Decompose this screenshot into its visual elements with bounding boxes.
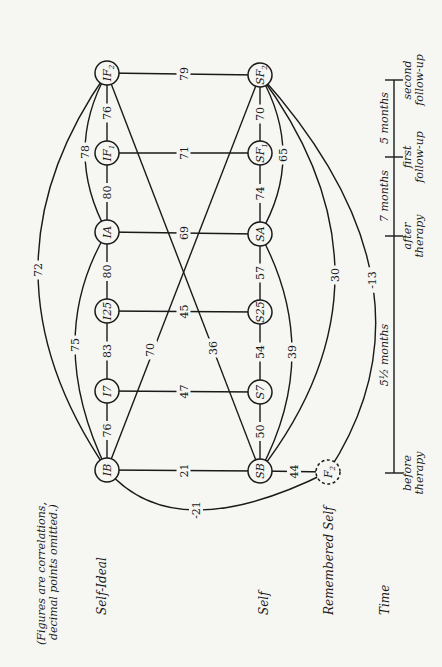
- node-label: SB: [254, 463, 267, 479]
- node-I7: I7: [95, 379, 119, 403]
- tick-label-2: follow-up: [413, 131, 426, 184]
- edge-label: 80: [100, 262, 114, 281]
- edge-label: 74: [253, 184, 267, 203]
- edge-label: 54: [253, 343, 267, 362]
- node-label: IA: [101, 226, 114, 239]
- diagram-svg: 7683808076505457747021474569717944703672…: [0, 0, 442, 667]
- edge-label: 21: [177, 461, 191, 480]
- tick-label-2: therapy: [413, 451, 426, 495]
- edge-SB-SF2: 30: [260, 75, 342, 471]
- edge-label: 39: [285, 343, 299, 362]
- edge-IB-IF2: 72: [31, 73, 107, 470]
- edge-label: -13: [365, 267, 379, 293]
- edge-value: 76: [101, 424, 114, 438]
- edge-value: 72: [32, 263, 45, 277]
- edge-label: 76: [100, 104, 114, 123]
- edge-value: 69: [178, 226, 191, 240]
- node-IA: IA: [95, 220, 119, 244]
- edge-value: 80: [101, 265, 114, 279]
- node-SF2: SF2: [248, 63, 272, 87]
- node-label: SA: [254, 226, 267, 242]
- edge-I7-S7: 47: [107, 382, 260, 401]
- edge-label: 70: [253, 105, 267, 124]
- interval-label: 5 months: [378, 92, 391, 144]
- edge-value: 44: [288, 465, 301, 479]
- time-tick: beforetherapy: [385, 451, 426, 495]
- edge-value: 21: [178, 464, 191, 478]
- edge-label: 44: [287, 462, 301, 481]
- row-label-self-ideal: Self-Ideal: [95, 557, 109, 615]
- edge-label: -21: [189, 497, 203, 523]
- edge-IF1-SF1: 71: [107, 144, 260, 163]
- edge-label: 78: [78, 143, 92, 162]
- edge-value: 54: [254, 345, 267, 359]
- correlation-diagram: 7683808076505457747021474569717944703672…: [0, 0, 442, 667]
- edge-value: 70: [254, 107, 267, 121]
- interval-label: 7 months: [378, 170, 391, 222]
- edge-label: 75: [68, 336, 82, 355]
- node-F2: F2: [316, 460, 340, 484]
- row-label-self: Self: [257, 589, 271, 615]
- node-SF1: SF1: [248, 141, 272, 165]
- edge-label: 30: [328, 266, 342, 285]
- node-label: I7: [101, 385, 114, 397]
- node-label: S25: [254, 301, 267, 323]
- edge-label: 36: [206, 339, 220, 358]
- edge-value: 47: [178, 385, 191, 399]
- edge-value: 71: [178, 146, 191, 160]
- edge-value: 45: [178, 305, 191, 319]
- edge-value: 79: [178, 67, 191, 81]
- edge-value: -21: [190, 501, 203, 519]
- edge-value: 36: [207, 341, 220, 355]
- edge-value: 76: [101, 106, 114, 120]
- node-IB: IB: [95, 458, 119, 482]
- edge-label: 76: [100, 421, 114, 440]
- edge-label: 83: [100, 342, 114, 361]
- edge-value: 80: [101, 186, 114, 200]
- edge-value: 74: [254, 187, 267, 201]
- edges-layer: 7683808076505457747021474569717944703672…: [31, 65, 379, 523]
- node-S7: S7: [248, 380, 272, 404]
- interval-label: 5½ months: [378, 323, 391, 386]
- edge-label: 70: [143, 341, 157, 360]
- edge-value: 50: [254, 425, 267, 439]
- edge-IB-SB: 21: [107, 461, 260, 480]
- row-label-remembered-self: Remembered Self: [322, 504, 336, 616]
- edge-label: 50: [253, 422, 267, 441]
- edge-label: 72: [31, 261, 45, 280]
- time-tick: firstfollow-up: [385, 131, 426, 184]
- nodes-layer: IBI7I25IAIF1IF2SBS7S25SASF1SF2F2: [95, 61, 340, 484]
- edge-label: 47: [177, 382, 191, 401]
- node-label: I25: [101, 302, 114, 321]
- edge-value: 83: [101, 344, 114, 358]
- edge-value: 65: [277, 148, 290, 162]
- edge-value: 30: [329, 268, 342, 282]
- time-tick: secondfollow-up: [385, 54, 426, 107]
- tick-label-2: follow-up: [413, 54, 426, 107]
- edge-value: 70: [144, 343, 157, 357]
- edge-value: 75: [69, 338, 82, 352]
- node-I25: I25: [95, 299, 119, 323]
- edge-label: 80: [100, 183, 114, 202]
- tick-label-2: therapy: [413, 214, 426, 258]
- edge-value: -13: [366, 271, 379, 289]
- node-SA: SA: [248, 222, 272, 246]
- edge-IF2-SF2: 79: [107, 65, 260, 84]
- note: (Figures are correlations, decimal point…: [35, 502, 60, 645]
- node-label: S7: [254, 385, 267, 400]
- edge-IA-SA: 69: [107, 224, 260, 243]
- edge-value: 39: [286, 345, 299, 359]
- edge-label: 71: [177, 144, 191, 163]
- edge-label: 45: [177, 302, 191, 321]
- edge-I25-S25: 45: [107, 302, 260, 321]
- node-IF2: IF2: [95, 61, 119, 85]
- timeline: beforetherapyaftertherapyfirstfollow-ups…: [378, 54, 426, 494]
- node-SB: SB: [248, 459, 272, 483]
- node-label: IB: [101, 464, 114, 477]
- edge-label: 65: [276, 146, 290, 165]
- edge-value: 57: [254, 266, 267, 280]
- edge-label: 57: [253, 264, 267, 283]
- row-label-time: Time: [378, 585, 392, 615]
- node-IF1: IF1: [95, 141, 119, 165]
- edge-label: 69: [177, 224, 191, 243]
